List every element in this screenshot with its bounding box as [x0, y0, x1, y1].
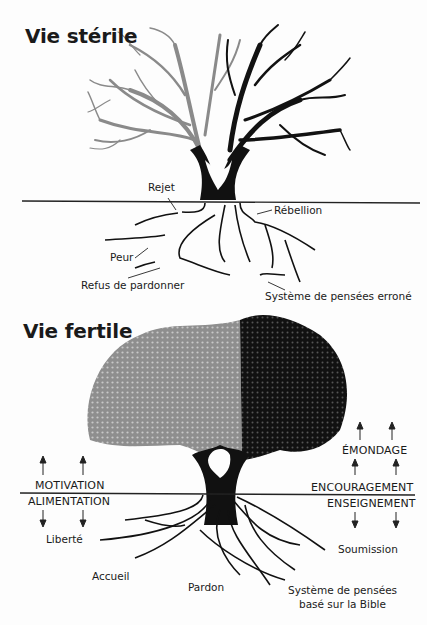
label-alimentation: ALIMENTATION	[28, 495, 110, 508]
sterile-tree	[88, 25, 350, 200]
label-rebellion: Rébellion	[274, 204, 322, 216]
sterile-pointers	[128, 198, 285, 290]
sterile-title: Vie stérile	[25, 24, 137, 48]
label-rejet: Rejet	[148, 181, 175, 193]
label-systeme-bible-1: Système de pensées	[288, 584, 397, 596]
label-motivation: MOTIVATION	[35, 479, 104, 492]
label-encouragement: ENCOURAGEMENT	[311, 481, 413, 494]
label-systeme-bible-2: basé sur la Bible	[299, 598, 386, 610]
sterile-ground-line	[22, 201, 420, 203]
label-enseignement: ENSEIGNEMENT	[327, 497, 416, 510]
label-emondage: ÉMONDAGE	[342, 444, 407, 457]
fertile-title: Vie fertile	[23, 319, 132, 343]
label-accueil: Accueil	[92, 570, 130, 582]
diagram-artwork	[0, 0, 427, 625]
label-pardon: Pardon	[188, 581, 224, 593]
label-systeme-errone: Système de pensées erroné	[265, 290, 412, 302]
label-liberte: Liberté	[46, 533, 83, 545]
label-refus: Refus de pardonner	[81, 279, 184, 291]
label-peur: Peur	[110, 251, 133, 263]
label-soumission: Soumission	[338, 543, 398, 555]
